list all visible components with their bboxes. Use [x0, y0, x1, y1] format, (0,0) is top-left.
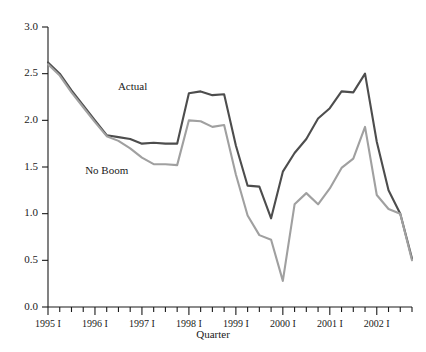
x-tick-label: 1996 I — [82, 318, 108, 329]
x-tick-label: 2002 I — [364, 318, 390, 329]
y-axis: 0.00.51.01.52.02.53.0 — [24, 20, 48, 312]
series-line-actual — [48, 62, 412, 258]
x-tick-label: 2001 I — [317, 318, 343, 329]
chart-canvas: 0.00.51.01.52.02.53.0 1995 I1996 I1997 I… — [0, 0, 426, 352]
y-tick-label: 1.0 — [24, 206, 38, 218]
quarterly-line-chart: 0.00.51.01.52.02.53.0 1995 I1996 I1997 I… — [0, 0, 426, 352]
x-axis: 1995 I1996 I1997 I1998 I1999 I2000 I2001… — [35, 307, 412, 329]
y-tick-label: 2.0 — [24, 113, 38, 125]
x-tick-label: 2000 I — [270, 318, 296, 329]
x-tick-label: 1995 I — [35, 318, 61, 329]
x-tick-label: 1997 I — [129, 318, 155, 329]
series-label-no-boom: No Boom — [85, 164, 129, 176]
series-annotations: ActualNo Boom — [85, 80, 147, 177]
x-axis-title: Quarter — [196, 328, 230, 340]
y-tick-label: 3.0 — [24, 20, 38, 32]
series-label-actual: Actual — [118, 80, 147, 92]
y-tick-label: 2.5 — [24, 66, 38, 78]
y-tick-label: 1.5 — [24, 160, 38, 172]
y-tick-label: 0.5 — [24, 253, 38, 265]
y-tick-label: 0.0 — [24, 300, 38, 312]
